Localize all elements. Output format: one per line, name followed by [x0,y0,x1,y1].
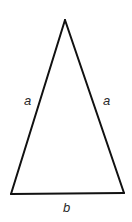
right-side-edge [65,20,124,193]
left-side-label: a [24,94,31,107]
base-label: b [63,201,70,214]
base-edge [11,193,124,194]
right-side-label: a [103,94,110,107]
left-side-edge [11,20,65,194]
isosceles-triangle-diagram [0,0,132,222]
